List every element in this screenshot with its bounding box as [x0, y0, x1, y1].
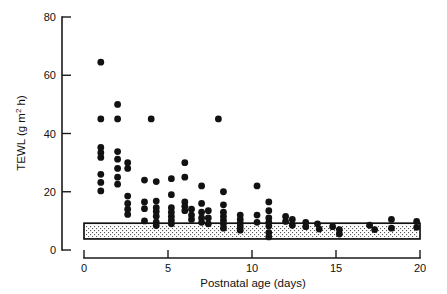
- data-point: [97, 116, 104, 123]
- data-point: [220, 225, 227, 232]
- data-point: [124, 200, 131, 207]
- data-point: [181, 174, 188, 181]
- data-point: [148, 116, 155, 123]
- data-point: [97, 179, 104, 186]
- data-point: [282, 218, 289, 225]
- data-point: [265, 233, 272, 240]
- data-point: [153, 213, 160, 220]
- data-point: [181, 207, 188, 214]
- data-point: [205, 220, 212, 227]
- y-tick-label: 80: [44, 11, 56, 23]
- data-point: [254, 212, 261, 219]
- x-tick-label: 15: [330, 262, 342, 274]
- data-point: [124, 193, 131, 200]
- data-point: [153, 198, 160, 205]
- y-axis: 020406080: [44, 11, 71, 256]
- data-point: [329, 223, 336, 230]
- data-point: [198, 200, 205, 207]
- data-point: [215, 116, 222, 123]
- data-point: [220, 188, 227, 195]
- scatter-plot: 020406080 05101520 Postnatal age (days) …: [0, 0, 447, 294]
- data-point: [168, 175, 175, 182]
- data-point: [141, 199, 148, 206]
- data-point: [265, 207, 272, 214]
- data-point: [141, 205, 148, 212]
- x-axis-title: Postnatal age (days): [200, 277, 306, 289]
- svg-text:TEWL (g m2 h): TEWL (g m2 h): [14, 95, 27, 171]
- data-point: [114, 156, 121, 163]
- x-axis-ticks: 05101520: [81, 250, 426, 274]
- data-point: [388, 225, 395, 232]
- data-point: [114, 174, 121, 181]
- data-point: [302, 223, 309, 230]
- data-point: [265, 223, 272, 230]
- data-point: [205, 215, 212, 222]
- data-point: [413, 218, 420, 225]
- data-point: [114, 116, 121, 123]
- y-axis-ticks: 020406080: [44, 11, 71, 256]
- data-point: [265, 199, 272, 206]
- data-point: [188, 206, 195, 213]
- data-point: [371, 226, 378, 233]
- x-axis: 05101520: [81, 250, 426, 274]
- data-point: [289, 216, 296, 223]
- data-point: [124, 211, 131, 218]
- data-point: [97, 59, 104, 66]
- data-point: [289, 222, 296, 229]
- data-point: [205, 207, 212, 214]
- data-point: [114, 181, 121, 188]
- data-point: [198, 209, 205, 216]
- data-point: [336, 231, 343, 238]
- data-point: [168, 220, 175, 227]
- data-point: [114, 148, 121, 155]
- data-point: [124, 165, 131, 172]
- data-point: [114, 165, 121, 172]
- data-point: [168, 191, 175, 198]
- y-tick-label: 40: [44, 128, 56, 140]
- data-point: [124, 159, 131, 166]
- plot-area: [84, 59, 420, 241]
- data-point: [220, 201, 227, 208]
- x-tick-label: 20: [414, 262, 426, 274]
- data-point: [254, 219, 261, 226]
- y-axis-title: TEWL (g m2 h): [14, 95, 27, 171]
- data-point: [188, 216, 195, 223]
- data-point: [141, 217, 148, 224]
- data-point: [388, 216, 395, 223]
- data-point: [413, 224, 420, 231]
- data-point: [141, 177, 148, 184]
- data-point: [114, 101, 121, 108]
- data-point: [153, 222, 160, 229]
- x-tick-label: 10: [246, 262, 258, 274]
- data-point: [316, 226, 323, 233]
- data-point: [97, 154, 104, 161]
- x-tick-label: 0: [81, 262, 87, 274]
- y-tick-label: 20: [44, 186, 56, 198]
- x-tick-label: 5: [165, 262, 171, 274]
- data-point: [254, 183, 261, 190]
- y-tick-label: 0: [50, 244, 56, 256]
- data-point: [97, 187, 104, 194]
- data-point: [237, 227, 244, 234]
- y-tick-label: 60: [44, 69, 56, 81]
- data-points-group: [97, 59, 420, 241]
- y-axis-title-tail: h): [15, 95, 27, 109]
- data-point: [153, 178, 160, 185]
- data-point: [198, 183, 205, 190]
- figure-container: 020406080 05101520 Postnatal age (days) …: [0, 0, 447, 294]
- data-point: [198, 219, 205, 226]
- y-axis-title-main: TEWL (g m: [15, 113, 27, 171]
- data-point: [181, 159, 188, 166]
- data-point: [97, 171, 104, 178]
